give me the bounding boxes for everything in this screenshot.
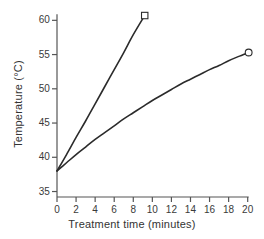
marker-open-square [142,12,148,18]
data-markers [142,12,253,56]
chart-figure: 354045505560 02468101214161820 Temperatu… [0,0,264,239]
x-tick-label: 20 [242,205,253,215]
x-tick-label: 14 [185,205,196,215]
tick-marks [52,20,248,202]
x-tick-label: 10 [147,205,158,215]
x-tick-label: 8 [130,205,136,215]
y-tick-label: 55 [20,50,50,60]
x-tick-label: 6 [111,205,117,215]
x-tick-label: 16 [204,205,215,215]
x-axis-title: Treatment time (minutes) [0,218,264,230]
y-tick-label: 40 [20,152,50,162]
x-tick-label: 0 [54,205,60,215]
caption-remnant [0,234,264,239]
y-tick-label: 50 [20,84,50,94]
marker-open-circle [245,49,252,56]
series-line-steep-rise [57,16,145,171]
series-line-gradual-rise [57,53,249,171]
axis-lines [57,14,249,197]
y-axis-title: Temperature (°C) [12,34,24,174]
x-tick-label: 18 [223,205,234,215]
y-tick-label: 45 [20,118,50,128]
y-tick-label: 35 [20,187,50,197]
y-tick-label: 60 [20,15,50,25]
x-tick-label: 4 [92,205,98,215]
x-tick-label: 12 [166,205,177,215]
x-tick-label: 2 [73,205,79,215]
data-series [57,16,249,171]
